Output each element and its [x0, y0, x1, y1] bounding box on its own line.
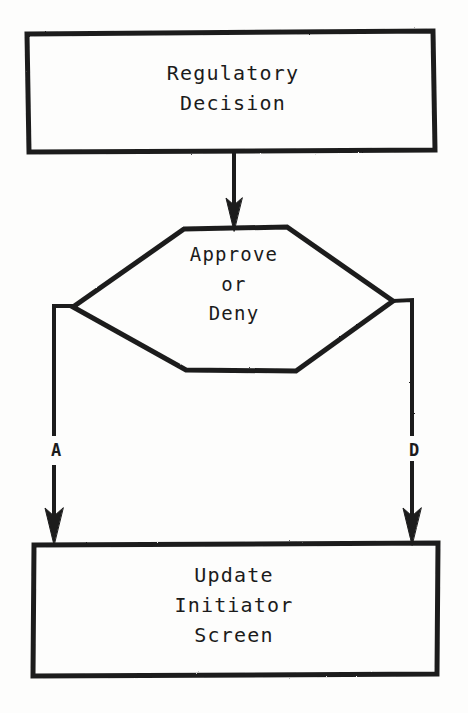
decision-label: Approve or Deny: [130, 240, 338, 329]
process-end-label: Update Initiator Screen: [34, 560, 434, 650]
branch-label-approve: A: [44, 440, 68, 460]
edge-decision-deny-line-upper: [393, 300, 412, 434]
branch-label-deny: D: [402, 440, 426, 460]
process-start-label: Regulatory Decision: [34, 58, 432, 119]
flowchart-canvas: Regulatory Decision Approve or Deny Upda…: [0, 0, 468, 713]
edge-decision-approve-line-upper: [54, 306, 73, 434]
